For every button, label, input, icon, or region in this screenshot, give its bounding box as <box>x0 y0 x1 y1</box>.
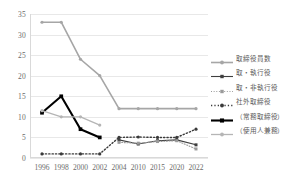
x-axis-tick-label: 2002 <box>92 163 107 172</box>
y-axis-tick-label: 25 <box>18 51 26 60</box>
data-point-marker <box>98 136 102 140</box>
y-axis-tick-label: 35 <box>18 10 26 19</box>
data-point-marker <box>59 94 63 98</box>
x-axis-tick-label: 1996 <box>35 163 50 172</box>
data-point-marker <box>40 152 43 155</box>
plot-area: 05101520253035 1996199820002002200420102… <box>30 14 208 158</box>
y-axis-tick-label: 30 <box>18 30 26 39</box>
data-point-marker <box>79 152 82 155</box>
x-axis-tick-label: 2015 <box>150 163 165 172</box>
data-point-marker <box>117 107 120 110</box>
x-axis-tick-label: 2022 <box>189 163 204 172</box>
data-point-marker <box>195 143 198 146</box>
data-point-marker <box>194 128 197 131</box>
y-axis-tick-label: 15 <box>18 92 26 101</box>
y-axis-tick-label: 0 <box>22 154 26 163</box>
data-point-marker <box>156 107 159 110</box>
legend-item-1[interactable]: 取締役員数 <box>210 52 287 67</box>
legend-key-icon <box>210 126 234 137</box>
line-chart: 05101520253035 1996199820002002200420102… <box>0 0 287 189</box>
legend-item-2[interactable]: 取・執行役 <box>210 67 287 82</box>
data-point-marker <box>79 127 83 131</box>
series-line <box>42 22 196 108</box>
data-point-marker <box>79 115 82 118</box>
legend-item-label: 取・執行役 <box>236 70 271 77</box>
data-point-marker <box>175 139 178 142</box>
legend-key-icon <box>210 112 234 123</box>
data-point-marker <box>175 136 178 139</box>
data-point-marker <box>156 140 159 143</box>
y-axis-tick-label: 10 <box>18 112 26 121</box>
y-axis-tick-label: 5 <box>22 133 26 142</box>
series-plot <box>30 14 208 158</box>
data-point-marker <box>60 21 63 24</box>
data-point-marker <box>60 115 63 118</box>
data-point-marker <box>117 136 120 139</box>
x-axis-tick-label: 2000 <box>73 163 88 172</box>
legend-item-6[interactable]: （使用人兼務） <box>210 125 287 140</box>
legend-item-3[interactable]: 取・非執行役 <box>210 81 287 96</box>
data-point-marker <box>98 152 101 155</box>
legend-key-icon <box>210 83 234 94</box>
legend-key-icon <box>210 54 234 65</box>
legend-key-icon <box>210 68 234 79</box>
data-point-marker <box>40 109 43 112</box>
series-取・非執行役 <box>118 139 198 150</box>
x-axis-tick-label: 2010 <box>131 163 146 172</box>
data-point-marker <box>137 107 140 110</box>
x-axis-tick-label: 2020 <box>169 163 184 172</box>
y-axis-tick-label: 20 <box>18 71 26 80</box>
data-point-marker <box>98 123 101 126</box>
legend-item-label: 取・非執行役 <box>236 85 277 92</box>
x-axis-tick-label: 2004 <box>112 163 127 172</box>
x-axis-tick-label: 1998 <box>54 163 69 172</box>
gridline <box>30 158 208 159</box>
legend-item-label: 取締役員数 <box>236 56 271 63</box>
data-point-marker <box>118 141 121 144</box>
legend-item-4[interactable]: 社外取締役 <box>210 96 287 111</box>
data-point-marker <box>137 142 140 145</box>
data-point-marker <box>79 58 82 61</box>
data-point-marker <box>60 152 63 155</box>
data-point-marker <box>137 135 140 138</box>
data-point-marker <box>194 107 197 110</box>
data-point-marker <box>156 136 159 139</box>
legend-item-label: （常務取締役） <box>236 114 284 121</box>
data-point-marker <box>195 147 198 150</box>
data-point-marker <box>40 21 43 24</box>
legend-item-label: 社外取締役 <box>236 99 271 106</box>
data-point-marker <box>98 74 101 77</box>
legend-key-icon <box>210 97 234 108</box>
legend-item-5[interactable]: （常務取締役） <box>210 110 287 125</box>
series-取締役員数 <box>40 21 197 111</box>
chart-legend: 取締役員数取・執行役取・非執行役社外取締役（常務取締役）（使用人兼務） <box>210 52 287 139</box>
legend-item-label: （使用人兼務） <box>236 128 284 135</box>
data-point-marker <box>175 107 178 110</box>
